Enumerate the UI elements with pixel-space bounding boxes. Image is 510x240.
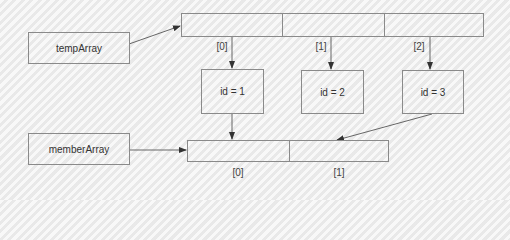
object-label-2: id = 2 [320,87,345,98]
arrow-id3-to-member1 [337,114,432,140]
member-index-0: [0] [232,167,243,178]
object-label-3: id = 3 [421,87,446,98]
memberarray-variable-box: memberArray [28,133,130,165]
temp-array-cell-2 [384,13,484,37]
temp-array-cell-0 [181,13,283,37]
temp-index-1: [1] [315,41,326,52]
member-array-cell-1 [289,140,389,162]
object-box-id-3: id = 3 [402,70,464,114]
member-index-1: [1] [333,167,344,178]
temp-index-0: [0] [216,41,227,52]
object-label-1: id = 1 [220,86,245,97]
object-box-id-1: id = 1 [201,69,264,114]
temparray-label: tempArray [56,43,102,54]
temp-array-cell-1 [282,13,385,37]
temparray-variable-box: tempArray [28,32,130,64]
arrow-temparray-to-array [129,26,180,44]
memberarray-label: memberArray [49,144,110,155]
temp-index-2: [2] [413,41,424,52]
member-array-cell-0 [187,140,290,162]
object-box-id-2: id = 2 [301,70,364,114]
